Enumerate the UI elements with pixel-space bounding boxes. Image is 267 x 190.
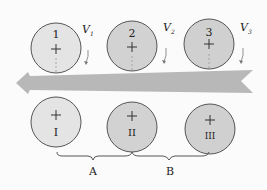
brace-a	[57, 152, 132, 160]
rotation-arrow-icon	[86, 50, 88, 63]
bottom-roll-3: III	[185, 104, 235, 154]
top-roll-1: 1	[31, 23, 81, 73]
roll-label: III	[205, 131, 216, 141]
roll-label: 2	[129, 27, 136, 40]
velocity-v2: V2	[162, 21, 175, 64]
diagram-svg: 1 2 3 V1 V2 V3 I II	[0, 0, 267, 190]
velocity-label: V2	[163, 21, 175, 35]
roll-stand-diagram: 1 2 3 V1 V2 V3 I II	[0, 0, 267, 190]
velocity-label: V3	[240, 21, 252, 35]
roll-label: 1	[53, 28, 60, 41]
top-roll-3: 3	[184, 19, 234, 70]
velocity-v1: V1	[82, 23, 94, 65]
brace-label-a: A	[88, 165, 98, 178]
strip-band-arrow	[16, 70, 253, 94]
arrowhead-icon	[162, 60, 166, 64]
rotation-arrow-icon	[164, 48, 166, 62]
velocity-v3: V3	[239, 21, 252, 64]
rotation-arrow-icon	[241, 48, 243, 62]
velocity-label: V1	[82, 23, 94, 37]
roll-label: 3	[206, 26, 213, 39]
top-roll-2: 2	[107, 21, 157, 71]
brace-b	[132, 152, 209, 160]
brace-label-b: B	[166, 165, 174, 178]
arrowhead-icon	[239, 60, 243, 64]
bottom-roll-1: I	[31, 97, 81, 147]
bottom-roll-2: II	[107, 102, 157, 152]
roll-label: I	[54, 126, 58, 139]
roll-label: II	[128, 127, 136, 138]
arrowhead-icon	[84, 61, 88, 65]
